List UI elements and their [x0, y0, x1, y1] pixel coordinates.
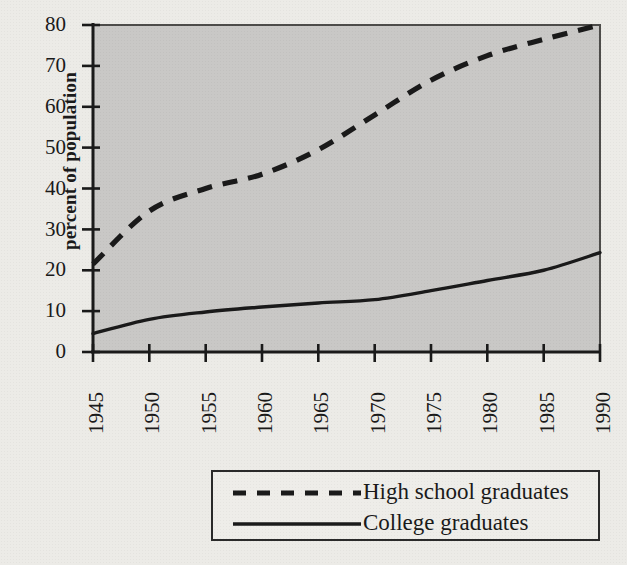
- x-tick-label-1950: 1950: [142, 392, 163, 434]
- y-tick-label-50: 50: [22, 137, 66, 158]
- y-tick-label-60: 60: [22, 96, 66, 117]
- line-chart-figure: percent of population 80 70 60 50 40 30 …: [0, 0, 627, 565]
- x-tick-label-1965: 1965: [311, 392, 332, 434]
- x-tick-label-1960: 1960: [255, 392, 276, 434]
- y-tick-label-20: 20: [22, 259, 66, 280]
- legend-label-college-graduates: College graduates: [363, 510, 528, 535]
- legend: High school graduates College graduates: [211, 470, 600, 541]
- y-tick-label-0: 0: [22, 341, 66, 362]
- x-tick-label-1980: 1980: [480, 392, 501, 434]
- x-tick-label-1970: 1970: [368, 392, 389, 434]
- x-tick-label-1945: 1945: [86, 392, 107, 434]
- y-tick-label-10: 10: [22, 300, 66, 321]
- y-tick-label-70: 70: [22, 55, 66, 76]
- y-tick-label-80: 80: [22, 14, 66, 35]
- legend-item-high-school-graduates: High school graduates: [213, 475, 598, 507]
- legend-item-college-graduates: College graduates: [213, 506, 598, 538]
- legend-sample-solid-line: [231, 516, 363, 528]
- legend-sample-dashed-line: [231, 485, 363, 497]
- y-tick-label-40: 40: [22, 178, 66, 199]
- x-tick-label-1985: 1985: [537, 392, 558, 434]
- x-tick-label-1975: 1975: [424, 392, 445, 434]
- legend-label-high-school-graduates: High school graduates: [363, 479, 569, 504]
- x-tick-label-1990: 1990: [593, 392, 614, 434]
- y-tick-label-30: 30: [22, 219, 66, 240]
- x-tick-label-1955: 1955: [199, 392, 220, 434]
